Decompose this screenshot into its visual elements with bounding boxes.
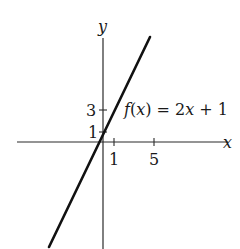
x-tick-label-5: 5 xyxy=(149,150,159,169)
x-axis-label: x xyxy=(223,133,232,152)
function-label: f(x) = 2x + 1 xyxy=(123,100,228,119)
y-tick-label-1: 1 xyxy=(88,123,98,142)
y-tick-label-3: 3 xyxy=(86,101,96,120)
function-graph: y x 1 5 3 1 f(x) = 2x + 1 xyxy=(0,0,240,249)
x-tick-label-1: 1 xyxy=(109,150,119,169)
y-axis-label: y xyxy=(97,17,108,36)
